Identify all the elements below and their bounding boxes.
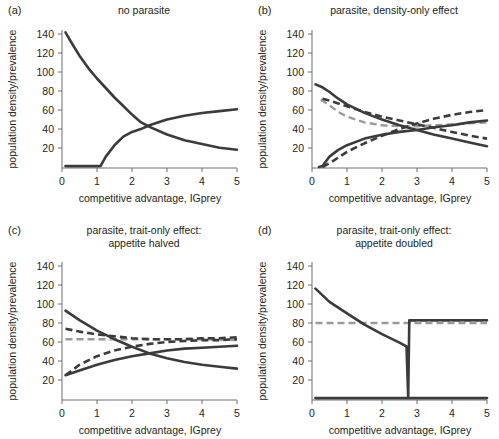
panel-a-xtick-2: 2 xyxy=(129,175,135,187)
panel-c-ytick-80: 80 xyxy=(42,317,54,329)
panel-c-xtick-1: 1 xyxy=(94,407,100,419)
panel-a-xtick-0: 0 xyxy=(59,175,65,187)
panel-d-ytick-40: 40 xyxy=(292,355,304,367)
curve-a-ascending xyxy=(66,109,238,166)
panel-d-xtick-2: 2 xyxy=(379,407,385,419)
panel-a-xticks: 0 1 2 3 4 5 xyxy=(59,168,240,187)
panel-a-ytick-100: 100 xyxy=(36,66,54,78)
panel-c-ylabel: population density/prevalence xyxy=(6,261,18,400)
panel-a-ytick-140: 140 xyxy=(36,28,54,40)
panel-d-xlabel: competitive advantage, IGprey xyxy=(329,424,472,436)
panel-d-svg: 140 120 100 80 60 40 20 0 1 xyxy=(250,220,499,439)
panel-d-xticks: 0 1 2 3 4 5 xyxy=(309,400,490,419)
panel-d-xtick-0: 0 xyxy=(309,407,315,419)
panel-c-xtick-2: 2 xyxy=(129,407,135,419)
panel-b-plot: 140 120 100 80 60 40 20 0 1 xyxy=(250,0,499,219)
panel-a: (a) no parasite 140 120 xyxy=(0,0,249,219)
panel-d-ylabel: population density/prevalence xyxy=(256,261,268,400)
panel-c-xlabel: competitive advantage, IGprey xyxy=(79,424,222,436)
curve-b-dark-dashed-ascending xyxy=(323,110,488,167)
panel-d-xtick-5: 5 xyxy=(484,407,490,419)
panel-b-xticks: 0 1 2 3 4 5 xyxy=(309,168,490,187)
panel-a-plot: 140 120 100 80 60 40 20 0 1 xyxy=(0,0,249,219)
panel-c-axes xyxy=(62,262,237,400)
panel-a-curves xyxy=(66,32,238,166)
panel-c-svg: 140 120 100 80 60 40 20 0 1 xyxy=(0,220,249,439)
panel-b-xlabel: competitive advantage, IGprey xyxy=(329,192,472,204)
panel-c-ytick-140: 140 xyxy=(36,260,54,272)
panel-b-xtick-1: 1 xyxy=(344,175,350,187)
panel-b-ylabel: population density/prevalence xyxy=(256,29,268,168)
curve-c-dark-dashed-ascending xyxy=(66,339,238,375)
panel-b-ytick-140: 140 xyxy=(286,28,304,40)
panel-d-ytick-100: 100 xyxy=(286,298,304,310)
panel-d-plot: 140 120 100 80 60 40 20 0 1 xyxy=(250,220,499,439)
panel-b-xtick-5: 5 xyxy=(484,175,490,187)
panel-a-ytick-40: 40 xyxy=(42,123,54,135)
panel-d-curves xyxy=(316,289,488,399)
panel-c-xtick-0: 0 xyxy=(59,407,65,419)
panel-b-ytick-60: 60 xyxy=(292,104,304,116)
panel-c-ytick-40: 40 xyxy=(42,355,54,367)
panel-d-yticks: 140 120 100 80 60 40 20 xyxy=(286,260,312,386)
panel-d-ytick-60: 60 xyxy=(292,336,304,348)
panel-a-axes xyxy=(62,30,237,168)
panel-b-curves xyxy=(316,84,488,167)
panel-a-xtick-1: 1 xyxy=(94,175,100,187)
panel-c-ytick-100: 100 xyxy=(36,298,54,310)
curve-d-descending-jump xyxy=(316,289,488,398)
curve-a-descending xyxy=(66,32,238,149)
panel-d-ytick-20: 20 xyxy=(292,374,304,386)
panel-a-ylabel: population density/prevalence xyxy=(6,29,18,168)
curve-b-dark-solid-descending xyxy=(316,84,488,146)
panel-a-yticks: 140 120 100 80 60 40 20 xyxy=(36,28,62,154)
panel-a-ytick-60: 60 xyxy=(42,104,54,116)
panel-b-xtick-4: 4 xyxy=(449,175,455,187)
panel-b-ytick-80: 80 xyxy=(292,85,304,97)
panel-b-ytick-40: 40 xyxy=(292,123,304,135)
panel-d: (d) parasite, trait-only effect: appetit… xyxy=(250,220,499,439)
figure-container: (a) no parasite 140 120 xyxy=(0,0,499,439)
panel-a-ytick-20: 20 xyxy=(42,142,54,154)
curve-c-dark-solid-ascending xyxy=(66,346,238,375)
panel-c-xtick-3: 3 xyxy=(164,407,170,419)
panel-c-plot: 140 120 100 80 60 40 20 0 1 xyxy=(0,220,249,439)
panel-c-xticks: 0 1 2 3 4 5 xyxy=(59,400,240,419)
panel-b-ytick-120: 120 xyxy=(286,47,304,59)
panel-b-ytick-100: 100 xyxy=(286,66,304,78)
panel-b-svg: 140 120 100 80 60 40 20 0 1 xyxy=(250,0,499,219)
panel-c-curves xyxy=(66,311,238,376)
curve-c-dark-dashed-descending xyxy=(66,329,238,340)
panel-a-xlabel: competitive advantage, IGprey xyxy=(79,192,222,204)
panel-a-svg: 140 120 100 80 60 40 20 0 1 xyxy=(0,0,249,219)
panel-c-xtick-4: 4 xyxy=(199,407,205,419)
panel-d-axes xyxy=(312,262,487,400)
panel-d-ytick-140: 140 xyxy=(286,260,304,272)
panel-d-xtick-3: 3 xyxy=(414,407,420,419)
panel-d-xtick-1: 1 xyxy=(344,407,350,419)
panel-d-ytick-80: 80 xyxy=(292,317,304,329)
panel-c: (c) parasite, trait-only effect: appetit… xyxy=(0,220,249,439)
panel-b-xtick-3: 3 xyxy=(414,175,420,187)
panel-d-ytick-120: 120 xyxy=(286,279,304,291)
panel-a-xtick-5: 5 xyxy=(234,175,240,187)
panel-b-ytick-20: 20 xyxy=(292,142,304,154)
panel-c-ytick-60: 60 xyxy=(42,336,54,348)
panel-c-ytick-120: 120 xyxy=(36,279,54,291)
panel-d-xtick-4: 4 xyxy=(449,407,455,419)
panel-b-xtick-0: 0 xyxy=(309,175,315,187)
panel-b: (b) parasite, density-only effect 14 xyxy=(250,0,499,219)
panel-c-yticks: 140 120 100 80 60 40 20 xyxy=(36,260,62,386)
panel-c-ytick-20: 20 xyxy=(42,374,54,386)
panel-b-xtick-2: 2 xyxy=(379,175,385,187)
panel-b-yticks: 140 120 100 80 60 40 20 xyxy=(286,28,312,154)
panel-c-xtick-5: 5 xyxy=(234,407,240,419)
panel-a-xtick-4: 4 xyxy=(199,175,205,187)
panel-a-ytick-80: 80 xyxy=(42,85,54,97)
panel-a-ytick-120: 120 xyxy=(36,47,54,59)
panel-a-xtick-3: 3 xyxy=(164,175,170,187)
